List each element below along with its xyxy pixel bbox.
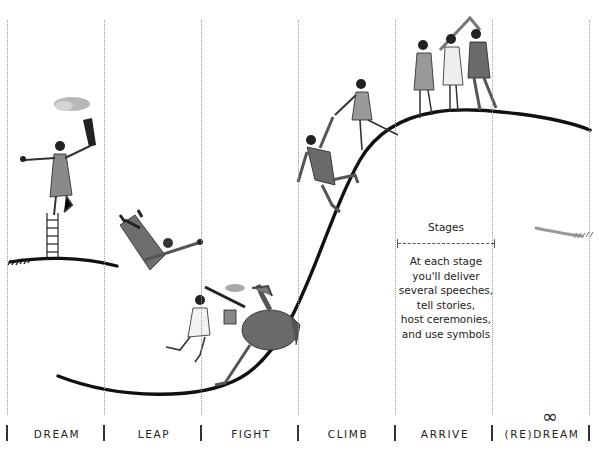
stage-label-redream: (RE)DREAM: [493, 428, 591, 440]
stages-legend-body: At each stage you'll deliver several spe…: [397, 254, 495, 341]
redream-curve: [536, 228, 593, 238]
arrive-figure: [414, 18, 496, 118]
stages-legend-line: host ceremonies,: [397, 312, 495, 327]
stages-span-rule: [397, 239, 495, 248]
column-divider-3: [201, 20, 202, 415]
column-divider-5: [395, 20, 396, 415]
stage-label-dream: DREAM: [8, 428, 106, 440]
dream-figure: [20, 97, 96, 260]
stages-legend-line: At each stage: [397, 254, 495, 269]
stage-diagram: [0, 0, 599, 457]
column-divider-1: [7, 20, 8, 415]
stage-label-climb: CLIMB: [299, 428, 397, 440]
stages-legend: Stages At each stage you'll deliver seve…: [397, 221, 495, 341]
stages-legend-line: and use symbols: [397, 327, 495, 342]
infinity-icon: ∞: [520, 406, 580, 426]
column-divider-6: [492, 20, 493, 415]
stages-legend-line: several speeches,: [397, 283, 495, 298]
stage-label-leap: LEAP: [105, 428, 203, 440]
stages-legend-title: Stages: [397, 221, 495, 233]
fight-figure: [166, 284, 300, 385]
dream-hill: [8, 258, 117, 266]
stage-label-arrive: ARRIVE: [396, 428, 494, 440]
column-divider-4: [298, 20, 299, 415]
column-divider-7: [589, 20, 590, 415]
stage-label-fight: FIGHT: [202, 428, 300, 440]
column-divider-2: [104, 20, 105, 415]
leap-figure: [120, 210, 203, 270]
stages-legend-line: you'll deliver: [397, 269, 495, 284]
climb-figure: [298, 79, 398, 212]
stages-legend-line: tell stories,: [397, 298, 495, 313]
